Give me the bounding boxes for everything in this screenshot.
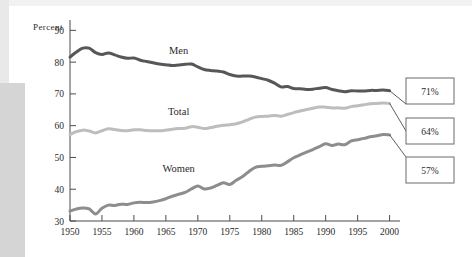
total-callout: 64% [390,103,454,144]
series-line-women [70,135,390,214]
series-label-women: Women [162,163,195,174]
series-lines-group [70,48,390,214]
chart-svg: Percent 30405060708090 19501955196019651… [25,6,472,251]
y-tick-label: 30 [55,217,65,227]
y-tick-label: 60 [55,121,65,131]
x-tick-label: 1980 [252,227,271,237]
series-label-men: Men [169,45,189,56]
y-tick-label: 90 [55,26,65,36]
women-callout-value: 57% [421,166,439,176]
x-tick-label: 1985 [284,227,303,237]
series-label-total: Total [168,106,190,117]
x-tick-label: 1960 [124,227,143,237]
total-callout-leader [390,103,406,131]
total-callout-value: 64% [421,127,439,137]
y-tick-label: 70 [55,89,65,99]
y-tick-label: 50 [55,153,65,163]
x-tick-label: 1965 [156,227,175,237]
x-tick-label: 2000 [380,227,399,237]
x-tick-label: 1970 [188,227,207,237]
x-tick-label: 1990 [316,227,335,237]
x-tick-label: 1950 [61,227,80,237]
chart-page: Percent 30405060708090 19501955196019651… [0,0,472,257]
x-tick-label: 1955 [92,227,111,237]
series-line-men [70,48,390,92]
men-callout-value: 71% [421,87,439,97]
labor-force-participation-chart: Percent 30405060708090 19501955196019651… [25,6,472,251]
page-edge-shadow-inner [0,83,25,257]
men-callout-leader [390,91,406,104]
x-axis-ticks: 1950195519601965197019751980198519901995… [61,215,400,237]
chart-plate: Percent 30405060708090 19501955196019651… [25,6,472,251]
women-callout-leader [390,135,406,157]
x-tick-label: 1995 [348,227,367,237]
x-tick-label: 1975 [220,227,239,237]
y-tick-label: 40 [55,185,65,195]
y-tick-label: 80 [55,58,65,68]
men-callout: 71% [390,78,454,104]
series-line-total [70,103,390,134]
